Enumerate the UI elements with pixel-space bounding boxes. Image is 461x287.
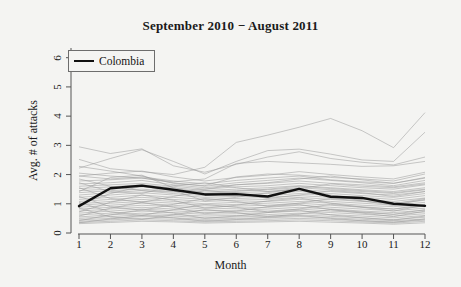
x-tick-label: 1 bbox=[67, 238, 91, 250]
y-tick-label: 1 bbox=[51, 197, 63, 211]
background-series-lines bbox=[79, 113, 425, 225]
x-tick-label: 4 bbox=[161, 238, 185, 250]
y-tick-label: 4 bbox=[51, 109, 63, 123]
y-axis-label: Avg. # of attacks bbox=[26, 61, 41, 221]
x-tick-label: 8 bbox=[287, 238, 311, 250]
x-axis-label: Month bbox=[0, 258, 461, 273]
y-tick-label: 0 bbox=[51, 226, 63, 240]
y-tick-label: 2 bbox=[51, 168, 63, 182]
y-tick-label: 6 bbox=[51, 51, 63, 65]
y-tick-label: 5 bbox=[51, 80, 63, 94]
x-tick-label: 11 bbox=[382, 238, 406, 250]
chart-legend: Colombia bbox=[68, 50, 155, 72]
x-tick-label: 12 bbox=[413, 238, 437, 250]
legend-item-colombia: Colombia bbox=[69, 51, 154, 71]
x-tick-label: 7 bbox=[256, 238, 280, 250]
legend-item-label: Colombia bbox=[99, 55, 144, 67]
y-tick-label: 3 bbox=[51, 138, 63, 152]
x-tick-label: 3 bbox=[130, 238, 154, 250]
x-tick-label: 5 bbox=[193, 238, 217, 250]
chart-figure: September 2010 − August 2011 Avg. # of a… bbox=[0, 0, 461, 287]
legend-line-swatch-icon bbox=[74, 60, 94, 62]
x-tick-label: 2 bbox=[98, 238, 122, 250]
x-tick-label: 9 bbox=[319, 238, 343, 250]
x-tick-label: 6 bbox=[224, 238, 248, 250]
chart-title: September 2010 − August 2011 bbox=[0, 18, 461, 34]
x-tick-label: 10 bbox=[350, 238, 374, 250]
